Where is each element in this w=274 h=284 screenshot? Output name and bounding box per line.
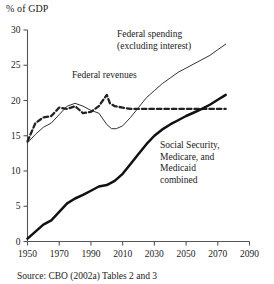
chart-figure: % of GDP 051015202530 195019701990201020…	[0, 0, 274, 284]
series-line-0	[28, 44, 226, 143]
annotation-federal-spending: Federal spending (excluding interest)	[117, 29, 191, 52]
annotation-federal-revenues-line1: Federal revenues	[72, 70, 137, 82]
series-line-1	[28, 95, 226, 142]
annotation-ssmm-line2: Medicare, and	[160, 152, 220, 164]
annotation-federal-spending-line2: (excluding interest)	[117, 41, 191, 53]
annotation-ssmm-line3: Medicaid	[160, 163, 220, 175]
annotation-federal-revenues: Federal revenues	[72, 70, 137, 82]
source-note: Source: CBO (2002a) Tables 2 and 3	[17, 271, 157, 281]
annotation-ssmm-combined: Social Security, Medicare, and Medicaid …	[160, 140, 220, 186]
annotation-ssmm-line1: Social Security,	[160, 140, 220, 152]
annotation-ssmm-line4: combined	[160, 175, 220, 187]
annotation-federal-spending-line1: Federal spending	[117, 29, 191, 41]
